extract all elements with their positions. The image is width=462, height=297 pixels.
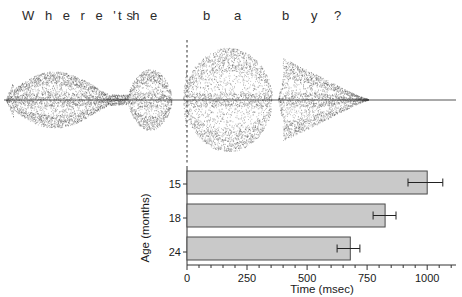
latency-bar-chart: Age (months) 15 18 24 02505007501000 Tim… bbox=[136, 160, 462, 297]
waveform-trace bbox=[4, 48, 456, 151]
y-tick-label: 24 bbox=[169, 246, 181, 258]
utterance-transcript: W h e r e ' s t h e b a b y ? bbox=[0, 8, 462, 34]
bar bbox=[187, 171, 427, 194]
x-tick-label: 750 bbox=[358, 272, 376, 284]
utterance-token: ? bbox=[334, 8, 341, 23]
y-tick-label: 15 bbox=[169, 178, 181, 190]
speech-waveform-panel bbox=[0, 38, 462, 166]
x-tick-label: 0 bbox=[184, 272, 190, 284]
x-axis-title: Time (msec) bbox=[290, 283, 354, 295]
y-axis-ticks bbox=[183, 184, 187, 252]
x-axis-ticks bbox=[187, 265, 451, 270]
x-tick-label: 1000 bbox=[415, 272, 439, 284]
bar bbox=[187, 237, 350, 260]
utterance-token: b bbox=[282, 8, 289, 23]
x-tick-label: 250 bbox=[238, 272, 256, 284]
utterance-token: a bbox=[234, 8, 241, 23]
utterance-token: t h e bbox=[118, 8, 161, 23]
y-tick-label: 18 bbox=[169, 212, 181, 224]
bar bbox=[187, 204, 385, 227]
bar-chart-svg: Age (months) 15 18 24 02505007501000 Tim… bbox=[136, 160, 462, 297]
utterance-token: y bbox=[311, 8, 318, 23]
utterance-token: b bbox=[203, 8, 210, 23]
y-axis-title: Age (months) bbox=[139, 193, 151, 262]
waveform-svg bbox=[0, 38, 462, 166]
bar-group bbox=[187, 171, 443, 260]
